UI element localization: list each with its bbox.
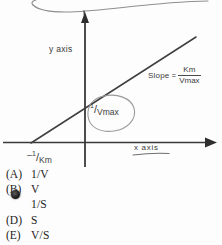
answer-choice-c-text: 1/S	[31, 198, 47, 210]
slope-equation-equals: =	[171, 71, 176, 80]
answer-choice-a-text: 1/V	[31, 168, 49, 180]
x-axis-label-underline	[133, 153, 169, 155]
answer-choice-a[interactable]: (A) 1/V	[6, 168, 222, 183]
y-intercept-label: 1/Vmax	[90, 99, 119, 117]
answer-choice-d-text: S	[31, 214, 38, 226]
x-axis-arrowhead	[205, 138, 217, 148]
y-axis-arrowhead	[81, 12, 89, 23]
answer-choice-d-letter: (D)	[6, 214, 31, 226]
answer-choice-list: (A) 1/V (B) V (C) 1/S (D) S (E) V/S	[6, 168, 222, 244]
y-axis-label: y axis	[49, 44, 73, 54]
selected-answer-pencil-mark	[11, 190, 20, 199]
x-axis-label: x axis	[134, 143, 159, 152]
answer-choice-d[interactable]: (D) S	[6, 214, 222, 229]
y-intercept-denominator: Vmax	[97, 107, 119, 117]
answer-choice-e-text: V/S	[31, 229, 50, 241]
answer-choice-b[interactable]: (B) V	[6, 183, 222, 198]
slope-denominator: Vmax	[178, 76, 200, 85]
answer-choice-e[interactable]: (E) V/S	[6, 229, 222, 244]
top-squiggle-tail	[32, 0, 36, 5]
top-squiggle-annotation	[33, 1, 208, 12]
slope-equation: Slope = Km Vmax	[148, 66, 201, 85]
lineweaver-burk-figure: y axis x axis Slope = Km Vmax –1/Km 1/Vm…	[0, 0, 222, 168]
slope-equation-fraction: Km Vmax	[178, 66, 200, 85]
answer-choice-b-text: V	[31, 183, 40, 195]
answer-choice-a-letter: (A)	[6, 168, 31, 180]
slope-numerator: Km	[182, 66, 196, 75]
answer-choice-c-letter: (C)	[6, 198, 31, 210]
x-intercept-label: –1/Km	[27, 147, 52, 165]
answer-choice-c[interactable]: (C) 1/S	[6, 198, 222, 213]
x-intercept-denominator: Km	[39, 155, 52, 165]
slope-equation-lhs: Slope	[148, 71, 169, 80]
answer-choice-e-letter: (E)	[6, 229, 31, 241]
exam-question-page: y axis x axis Slope = Km Vmax –1/Km 1/Vm…	[0, 0, 222, 245]
